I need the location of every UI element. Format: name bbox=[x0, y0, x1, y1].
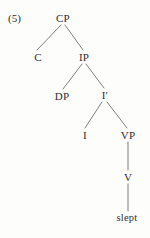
tree-node-ibar: I′ bbox=[102, 90, 108, 101]
tree-node-i: I bbox=[83, 130, 87, 141]
tree-edge-cp-ip bbox=[65, 25, 83, 50]
figure-canvas: (5) CPCIPDPI′IVPVslept bbox=[0, 0, 150, 238]
tree-edge-ip-dp bbox=[63, 64, 82, 89]
tree-edges bbox=[0, 0, 150, 238]
tree-node-c: C bbox=[34, 52, 42, 63]
tree-node-ip: IP bbox=[79, 52, 89, 63]
tree-node-slept: slept bbox=[117, 213, 138, 224]
tree-edge-ibar-vp bbox=[107, 102, 127, 128]
example-number-label: (5) bbox=[8, 13, 21, 24]
tree-node-vp: VP bbox=[121, 130, 135, 141]
tree-node-v: V bbox=[124, 172, 132, 183]
tree-node-cp: CP bbox=[56, 13, 70, 24]
tree-edge-cp-c bbox=[37, 25, 61, 50]
tree-edge-ip-ibar bbox=[86, 64, 104, 88]
tree-node-dp: DP bbox=[55, 91, 69, 102]
tree-edge-ibar-i bbox=[85, 102, 102, 128]
